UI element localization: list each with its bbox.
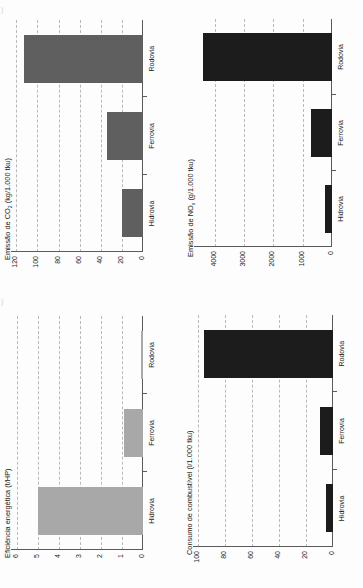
plot-area-eficiencia: 0123456HidroviaFerroviaRodovia (11, 316, 143, 550)
category-tick (333, 391, 337, 392)
y-tick-label: 40 (96, 256, 103, 282)
category-label-hidrovia: Hidrovia (338, 470, 345, 547)
bar-hidrovia (122, 189, 143, 237)
plot-area-nox: 01000200030004000HidroviaFerroviaRodovia (194, 19, 332, 247)
bar-hidrovia (326, 484, 333, 532)
chart-combustivel: Consumo de combustível (l/1.000 tku)0204… (185, 307, 355, 577)
category-tick (143, 96, 147, 97)
y-tick-label: 100 (193, 551, 200, 577)
bar-hidrovia (38, 487, 143, 535)
category-tick (143, 174, 147, 175)
bar-rodovia (24, 35, 143, 83)
gridline (17, 316, 18, 550)
category-tick (143, 471, 147, 472)
scanned-figure-page: ) ) Emissão de CO2 (kg/1.000 tku)0204060… (0, 0, 363, 588)
axis-value-line (193, 546, 333, 547)
bar-ferrovia (319, 407, 332, 455)
axis-value-line (11, 549, 143, 550)
y-tick-label: 3 (75, 554, 82, 580)
y-tick-label: 0 (328, 551, 335, 577)
category-tick (332, 170, 336, 171)
category-label-rodovia: Rodovia (148, 316, 155, 394)
y-tick-label: 5 (33, 554, 40, 580)
axis-value-line (194, 246, 332, 247)
category-label-ferrovia: Ferrovia (338, 392, 345, 469)
category-label-hidrovia: Hidrovia (148, 472, 155, 550)
bar-rodovia (202, 33, 331, 80)
category-tick (333, 469, 337, 470)
y-tick-label: 20 (301, 551, 308, 577)
axis-value-line (11, 251, 143, 252)
y-tick-label: 3000 (238, 251, 245, 277)
y-tick-label: 100 (32, 256, 39, 282)
y-tick-label: 20 (117, 256, 124, 282)
bar-ferrovia (311, 109, 332, 156)
category-label-hidrovia: Hidrovia (337, 171, 344, 247)
category-label-ferrovia: Ferrovia (148, 97, 155, 174)
y-tick-label: 6 (12, 554, 19, 580)
category-label-rodovia: Rodovia (337, 19, 344, 95)
plot-area-combustivel: 020406080100HidroviaFerroviaRodovia (193, 315, 333, 547)
category-label-hidrovia: Hidrovia (148, 175, 155, 252)
plot-area-co2: 020406080100120HidroviaFerroviaRodovia (11, 20, 143, 252)
category-label-rodovia: Rodovia (338, 315, 345, 392)
category-tick (143, 393, 147, 394)
chart-nox: Emissão de NOx (g/1.000 tku)010002000300… (186, 11, 354, 283)
category-label-ferrovia: Ferrovia (337, 95, 344, 171)
y-tick-label: 60 (75, 256, 82, 282)
chart-eficiencia: Eficiência energética (t/HP)0123456Hidro… (5, 308, 165, 576)
chart-panel-co2: Emissão de CO2 (kg/1.000 tku)02040608010… (0, 0, 170, 294)
y-tick-label: 2000 (268, 251, 275, 277)
category-tick (332, 94, 336, 95)
y-tick-label: 40 (274, 551, 281, 577)
chart-panel-nox: Emissão de NOx (g/1.000 tku)010002000300… (176, 0, 363, 294)
y-tick-label: 80 (54, 256, 61, 282)
y-tick-label: 60 (247, 551, 254, 577)
y-tick-label: 2 (96, 554, 103, 580)
category-label-ferrovia: Ferrovia (148, 394, 155, 472)
y-tick-label: 0 (327, 251, 334, 277)
bar-ferrovia (124, 409, 143, 457)
gridline (16, 20, 17, 252)
y-tick-label: 120 (11, 256, 18, 282)
bar-rodovia (203, 330, 332, 378)
bar-rodovia (141, 331, 144, 379)
category-label-rodovia: Rodovia (148, 20, 155, 97)
y-tick-label: 4 (54, 554, 61, 580)
y-tick-label: 1000 (297, 251, 304, 277)
y-tick-label: 0 (138, 554, 145, 580)
chart-panel-eficiencia: Eficiência energética (t/HP)0123456Hidro… (0, 296, 170, 588)
chart-co2: Emissão de CO2 (kg/1.000 tku)02040608010… (5, 12, 165, 282)
gridline (198, 315, 199, 547)
bar-hidrovia (324, 185, 331, 232)
y-tick-label: 4000 (209, 251, 216, 277)
y-tick-label: 0 (138, 256, 145, 282)
y-tick-label: 1 (117, 554, 124, 580)
y-tick-label: 80 (220, 551, 227, 577)
chart-panel-combustivel: Consumo de combustível (l/1.000 tku)0204… (176, 296, 363, 588)
bar-ferrovia (107, 112, 143, 160)
